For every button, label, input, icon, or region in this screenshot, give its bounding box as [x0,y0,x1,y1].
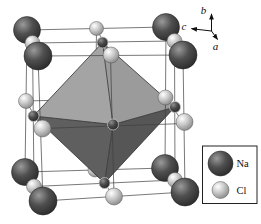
legend-label-cl: Cl [237,185,247,196]
atom-face-center-right [170,102,181,113]
atom-na-corner-front-top-left [24,42,52,70]
axis-arrow-a [212,31,218,40]
atom-na-corner-front-top-right [169,41,197,69]
atom-face-center-front [108,119,119,130]
atom-face-center-top [97,37,108,48]
atom-cl-edge-left-back [19,94,34,109]
atom-cl-edge-left-front [34,120,51,137]
crystal-structure-figure: b c a Na Cl [0,0,261,224]
axis-label-b: b [201,4,207,16]
atom-na-corner-front-bottom-right [171,178,199,206]
atom-cl-edge-right-front [176,114,193,131]
axis-label-a: a [213,40,219,52]
axis-label-c: c [182,20,187,32]
legend-cl-sphere [212,182,229,199]
atom-cl-edge-top-front [103,47,119,63]
atom-cl-edge-right-back [158,90,173,105]
axis-arrow-c [192,29,212,31]
atom-face-center-left [28,111,39,122]
atom-cl-edge-top-back [90,22,104,36]
atom-face-center-bottom [99,178,110,189]
legend-label-na: Na [237,158,250,169]
atom-na-corner-front-bottom-left [29,187,57,215]
legend: Na Cl [203,146,258,204]
atom-cl-edge-bottom-front [106,188,123,205]
legend-na-sphere [208,151,233,176]
legend-box [203,146,258,204]
